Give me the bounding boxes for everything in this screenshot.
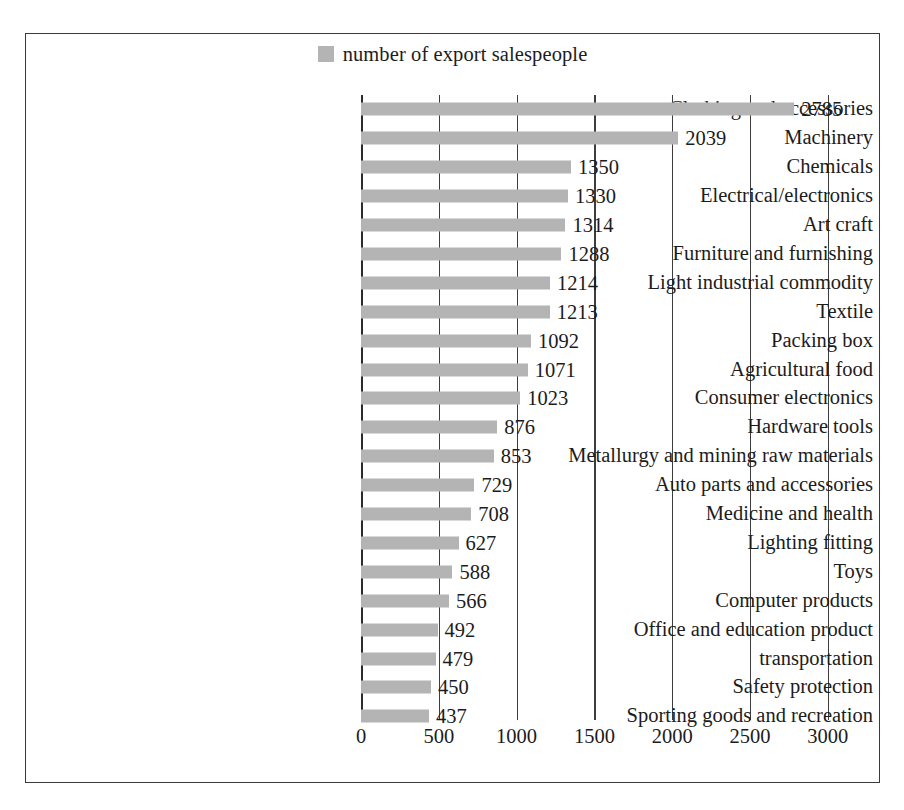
bar-track: 492 xyxy=(361,615,881,644)
bar-value-label: 1288 xyxy=(561,244,609,265)
bar-row: Lighting fitting627 xyxy=(26,529,881,558)
bar-track: 729 xyxy=(361,471,881,500)
bar-row: Agricultural food1071 xyxy=(26,355,881,384)
bar-track: 1092 xyxy=(361,326,881,355)
bar-value-label: 1023 xyxy=(520,388,568,409)
bar-value-label: 2039 xyxy=(678,128,726,149)
bar-row: Office and education product492 xyxy=(26,615,881,644)
bar-track: 2039 xyxy=(361,124,881,153)
bar-track: 1288 xyxy=(361,240,881,269)
bar-track: 1314 xyxy=(361,211,881,240)
bar-value-label: 1330 xyxy=(568,186,616,207)
bar-value-label: 1314 xyxy=(565,215,613,236)
bar-row: Light industrial commodity1214 xyxy=(26,268,881,297)
bar xyxy=(361,421,497,434)
bar-row: Art craft1314 xyxy=(26,211,881,240)
x-tick-label: 0 xyxy=(356,726,366,747)
x-tick-label: 2500 xyxy=(730,726,771,747)
bar xyxy=(361,132,678,145)
bar xyxy=(361,681,431,694)
bar-track: 876 xyxy=(361,413,881,442)
bar xyxy=(361,594,449,607)
bar-row: Furniture and furnishing1288 xyxy=(26,240,881,269)
bar xyxy=(361,392,520,405)
bar-value-label: 450 xyxy=(431,677,469,698)
bar-value-label: 729 xyxy=(474,475,512,496)
bar xyxy=(361,450,494,463)
bar xyxy=(361,103,794,116)
x-tick-label: 2000 xyxy=(652,726,693,747)
plot-area: Clothing and accessories2785Machinery203… xyxy=(26,95,881,720)
bar xyxy=(361,219,565,232)
bar-value-label: 627 xyxy=(459,533,497,554)
bar-value-label: 876 xyxy=(497,417,535,438)
bar-track: 1214 xyxy=(361,268,881,297)
bar-value-label: 479 xyxy=(436,648,474,669)
bar-row: Auto parts and accessories729 xyxy=(26,471,881,500)
bar-row: Chemicals1350 xyxy=(26,153,881,182)
bar-row: Textile1213 xyxy=(26,297,881,326)
bar-value-label: 2785 xyxy=(794,99,842,120)
bar-value-label: 853 xyxy=(494,446,532,467)
legend-label: number of export salespeople xyxy=(343,44,588,65)
x-tick-label: 1000 xyxy=(496,726,537,747)
bar-row: Medicine and health708 xyxy=(26,500,881,529)
bar-track: 588 xyxy=(361,557,881,586)
bar-rows: Clothing and accessories2785Machinery203… xyxy=(26,95,881,720)
bar-track: 450 xyxy=(361,673,881,702)
bar-row: Hardware tools876 xyxy=(26,413,881,442)
bar-value-label: 1071 xyxy=(528,359,576,380)
bar-track: 627 xyxy=(361,529,881,558)
bar xyxy=(361,190,568,203)
bar xyxy=(361,508,471,521)
x-axis: 050010001500200025003000 xyxy=(26,720,881,760)
bar-row: Computer products566 xyxy=(26,586,881,615)
bar-track: 479 xyxy=(361,644,881,673)
bar-track: 566 xyxy=(361,586,881,615)
bar-value-label: 1350 xyxy=(571,157,619,178)
x-tick-label: 500 xyxy=(423,726,454,747)
bar-track: 1023 xyxy=(361,384,881,413)
bar-row: Safety protection450 xyxy=(26,673,881,702)
bar xyxy=(361,305,550,318)
bar-row: Consumer electronics1023 xyxy=(26,384,881,413)
bar-value-label: 1092 xyxy=(531,330,579,351)
bar xyxy=(361,334,531,347)
bar-value-label: 566 xyxy=(449,590,487,611)
bar-track: 1350 xyxy=(361,153,881,182)
x-tick-label: 1500 xyxy=(574,726,615,747)
bar-row: Toys588 xyxy=(26,557,881,586)
bar-track: 853 xyxy=(361,442,881,471)
chart-frame: number of export salespeople Clothing an… xyxy=(25,33,880,783)
bar xyxy=(361,479,474,492)
bar xyxy=(361,363,528,376)
bar-value-label: 708 xyxy=(471,504,509,525)
bar-row: Metallurgy and mining raw materials853 xyxy=(26,442,881,471)
x-tick-label: 3000 xyxy=(807,726,848,747)
chart-legend: number of export salespeople xyxy=(26,44,879,65)
bar xyxy=(361,276,550,289)
bar xyxy=(361,247,561,260)
bar xyxy=(361,565,452,578)
bar-track: 2785 xyxy=(361,95,881,124)
bar-row: Packing box1092 xyxy=(26,326,881,355)
bar-value-label: 588 xyxy=(452,562,490,583)
bar-row: Machinery2039 xyxy=(26,124,881,153)
bar-value-label: 492 xyxy=(438,619,476,640)
bar-row: Electrical/electronics1330 xyxy=(26,182,881,211)
bar-row: transportation479 xyxy=(26,644,881,673)
bar-track: 1330 xyxy=(361,182,881,211)
bar xyxy=(361,652,436,665)
bar-value-label: 1214 xyxy=(550,273,598,294)
bar xyxy=(361,536,459,549)
bar-value-label: 1213 xyxy=(550,301,598,322)
bar-row: Clothing and accessories2785 xyxy=(26,95,881,124)
bar xyxy=(361,161,571,174)
bar-track: 1213 xyxy=(361,297,881,326)
bar xyxy=(361,623,438,636)
bar-track: 708 xyxy=(361,500,881,529)
bar-track: 1071 xyxy=(361,355,881,384)
legend-swatch-icon xyxy=(318,46,334,62)
